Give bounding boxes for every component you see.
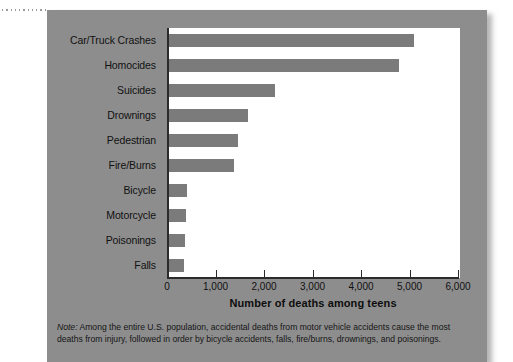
bar <box>169 184 187 197</box>
note-text: Among the entire U.S. population, accide… <box>57 322 450 344</box>
chart-note: Note: Among the entire U.S. population, … <box>57 321 477 345</box>
category-label: Car/Truck Crashes <box>70 34 156 47</box>
x-axis-tick <box>313 270 314 277</box>
x-axis-tick-label: 3,000 <box>300 281 325 292</box>
x-axis-tick <box>361 270 362 277</box>
x-axis-title: Number of deaths among teens <box>167 297 459 309</box>
decorative-dot-rule <box>2 8 46 11</box>
category-label: Pedestrian <box>107 134 156 147</box>
bar <box>169 109 248 122</box>
category-label: Falls <box>134 259 156 272</box>
bar <box>169 134 238 147</box>
category-axis: Car/Truck CrashesHomocidesSuicidesDrowni… <box>47 28 160 278</box>
plot-area <box>167 28 460 278</box>
figure-panel: Car/Truck CrashesHomocidesSuicidesDrowni… <box>47 10 487 362</box>
x-axis-tick-label: 6,000 <box>445 281 470 292</box>
x-axis-tick-label: 5,000 <box>397 281 422 292</box>
category-label: Poisonings <box>106 234 156 247</box>
category-label: Bicycle <box>123 184 156 197</box>
bar <box>169 84 275 97</box>
category-label: Suicides <box>117 84 156 97</box>
bar <box>169 59 399 72</box>
x-axis-line <box>167 277 459 279</box>
category-label: Homocides <box>104 59 156 72</box>
x-axis-tick-label: 1,000 <box>203 281 228 292</box>
category-label: Motorcycle <box>106 209 156 222</box>
bar <box>169 259 184 272</box>
x-axis-tick <box>458 270 459 277</box>
category-label: Drownings <box>107 109 156 122</box>
x-axis-tick-label: 0 <box>164 281 170 292</box>
category-label: Fire/Burns <box>109 159 156 172</box>
note-label: Note: <box>57 322 78 332</box>
x-axis-tick <box>410 270 411 277</box>
bar <box>169 34 414 47</box>
bar <box>169 209 186 222</box>
x-axis-tick-label: 4,000 <box>348 281 373 292</box>
x-axis-tick <box>264 270 265 277</box>
bar <box>169 159 234 172</box>
x-axis-tick <box>216 270 217 277</box>
x-axis-tick-label: 2,000 <box>251 281 276 292</box>
bar <box>169 234 185 247</box>
